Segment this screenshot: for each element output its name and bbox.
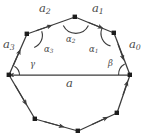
label-side-a1-base: a xyxy=(92,1,99,15)
label-side-a1-sub: 1 xyxy=(99,7,104,16)
arrow-a2 xyxy=(36,26,50,31)
label-side-a3: a3 xyxy=(3,39,15,52)
vertex-dot-lower-right xyxy=(115,111,119,115)
label-angle-alpha1-sub: 1 xyxy=(95,48,99,54)
label-side-a0-base: a xyxy=(129,37,136,51)
vertex-dot-bottom-left xyxy=(33,117,37,121)
label-angle-alpha3: α3 xyxy=(44,45,53,55)
label-side-a2: a2 xyxy=(39,3,51,16)
arrow-a0 xyxy=(118,44,123,58)
polygon-svg xyxy=(0,0,151,140)
polygon-diagram: a2 a1 a3 a0 a α2 α3 α1 γ β xyxy=(0,0,151,140)
label-angle-beta: β xyxy=(108,59,113,68)
arrow-bottom-left xyxy=(44,122,62,127)
label-side-a3-sub: 3 xyxy=(10,43,15,52)
vertex-dot-left-mid xyxy=(7,73,11,77)
vertex-dot-bottom xyxy=(76,129,80,133)
arrow-a3 xyxy=(13,52,20,67)
arc-gamma xyxy=(14,66,19,75)
arrow-lower-right xyxy=(123,83,127,95)
arc-alpha3 xyxy=(34,31,42,47)
arrow-bottom-right xyxy=(92,118,106,125)
label-side-a1: a1 xyxy=(92,3,104,16)
label-angle-alpha2: α2 xyxy=(66,35,75,45)
label-angle-alpha2-sub: 2 xyxy=(72,38,76,44)
arrow-lower-left xyxy=(15,85,26,103)
vertex-dot-upper-left xyxy=(25,32,29,36)
label-side-a3-base: a xyxy=(3,37,10,51)
arc-alpha2 xyxy=(63,26,88,34)
arc-beta xyxy=(119,64,125,75)
vertex-dot-top-left xyxy=(73,15,77,19)
label-side-a2-base: a xyxy=(39,1,46,15)
vertex-dot-top-right xyxy=(112,31,116,35)
label-side-a: a xyxy=(66,78,73,90)
label-side-a0: a0 xyxy=(129,39,141,52)
label-angle-alpha3-sub: 3 xyxy=(50,48,54,54)
label-angle-gamma: γ xyxy=(30,60,35,69)
label-angle-alpha1: α1 xyxy=(89,45,98,55)
label-side-a0-sub: 0 xyxy=(136,43,141,52)
vertex-dot-right-mid xyxy=(128,73,132,77)
label-side-a2-sub: 2 xyxy=(46,7,51,16)
arrow-a1 xyxy=(88,22,101,27)
